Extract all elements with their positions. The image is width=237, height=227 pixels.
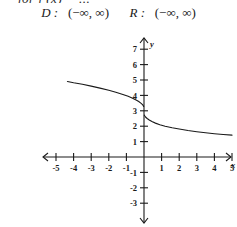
domain-label: D :	[41, 5, 58, 20]
y-tick-label: 3	[133, 106, 137, 116]
y-tick-label: 7	[133, 44, 138, 54]
y-tick-labels-group: 7654321-1-2-3	[130, 44, 138, 208]
x-tick-label: -4	[70, 163, 78, 173]
y-tick-label: 5	[133, 75, 137, 85]
clipped-problem-text: for f (x) = ...	[18, 0, 90, 3]
x-tick-label: -3	[88, 163, 95, 173]
y-tick-label: -3	[130, 198, 137, 208]
y-tick-label: -1	[130, 168, 137, 178]
x-tick-label: 3	[195, 163, 199, 173]
x-tick-labels-group: -5-4-3-2-112345	[52, 163, 234, 173]
x-axis-label: x	[230, 160, 236, 170]
y-axis-label: y	[149, 39, 154, 49]
y-tick-label: 6	[133, 60, 137, 70]
y-tick-label: 1	[133, 137, 137, 147]
range-value: (−∞, ∞)	[155, 5, 196, 20]
range-label: R :	[129, 5, 145, 20]
x-tick-label: -2	[105, 163, 112, 173]
function-graph: -5-4-3-2-112345 7654321-1-2-3 x y	[0, 22, 237, 227]
x-tick-label: 4	[212, 163, 217, 173]
curve-right-branch	[144, 115, 232, 135]
domain-range-answer: D : (−∞, ∞) R : (−∞, ∞)	[0, 5, 237, 21]
x-tick-label: 1	[159, 163, 163, 173]
domain-value: (−∞, ∞)	[68, 5, 109, 20]
x-tick-label: 2	[177, 163, 181, 173]
x-tick-label: -1	[123, 163, 130, 173]
axes-group	[43, 38, 231, 223]
y-tick-label: -2	[130, 183, 137, 193]
y-tick-label: 2	[133, 121, 137, 131]
graph-canvas: -5-4-3-2-112345 7654321-1-2-3 x y	[0, 22, 237, 227]
curve-group	[67, 82, 232, 136]
x-tick-label: -5	[52, 163, 59, 173]
